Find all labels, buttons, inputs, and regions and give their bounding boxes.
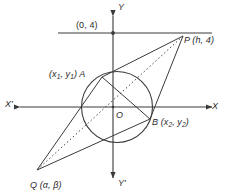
- point-b-suffix: ): [186, 117, 189, 127]
- point-p-label: P (h, 4): [184, 35, 214, 45]
- geometry-figure: Y Y' X X' (0, 4) P (h, 4) Q (α, β) (x1, …: [0, 0, 228, 196]
- y-negative-axis-label: Y': [118, 178, 126, 188]
- point-a-prefix: (x: [49, 69, 57, 79]
- point-a-mid: , y: [60, 69, 70, 79]
- point-a-suffix: ) A: [74, 69, 85, 79]
- point-a-sub1: 1: [57, 73, 61, 80]
- tangent-qa: [37, 77, 102, 170]
- point-b-sub2: 2: [182, 121, 186, 128]
- origin-marker: [112, 106, 115, 109]
- point-a-label: (x1, y1) A: [49, 69, 85, 79]
- origin-label: O: [116, 110, 123, 120]
- tangent-qb: [37, 119, 150, 170]
- diagram-canvas: [0, 0, 228, 196]
- point-0-4-label: (0, 4): [76, 20, 98, 30]
- y-axis-label: Y: [118, 2, 124, 12]
- point-q-label: Q (α, β): [30, 180, 62, 190]
- segment-pq-dotted: [37, 36, 183, 170]
- point-b-mid: , y: [172, 117, 182, 127]
- point-b-sub1: 2: [168, 121, 172, 128]
- point-0-4-marker: [111, 31, 115, 35]
- point-b-prefix: B (x: [152, 117, 168, 127]
- tangent-pa: [102, 36, 183, 77]
- point-b-label: B (x2, y2): [152, 117, 189, 127]
- point-a-sub2: 1: [70, 73, 74, 80]
- x-negative-axis-label: X': [5, 99, 13, 109]
- x-axis-label: X: [212, 101, 218, 111]
